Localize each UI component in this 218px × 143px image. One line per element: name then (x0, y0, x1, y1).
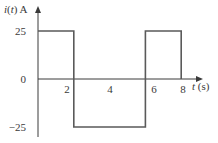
y-axis-arrow-icon (35, 6, 41, 13)
x-tick-label: 8 (180, 83, 186, 95)
y-axis-label: i(t) A (4, 3, 28, 16)
x-tick-label: 2 (64, 83, 70, 95)
x-tick-label: 4 (107, 83, 113, 95)
y-tick-label: 0 (21, 73, 27, 85)
y-tick-label: 25 (15, 25, 27, 37)
current-waveform-chart: i(t) A 25 0 −25 2 4 6 8 t (s) (0, 0, 218, 143)
x-axis-label: t (s) (192, 80, 210, 93)
x-tick-label: 6 (151, 83, 157, 95)
y-tick-label: −25 (9, 121, 27, 133)
